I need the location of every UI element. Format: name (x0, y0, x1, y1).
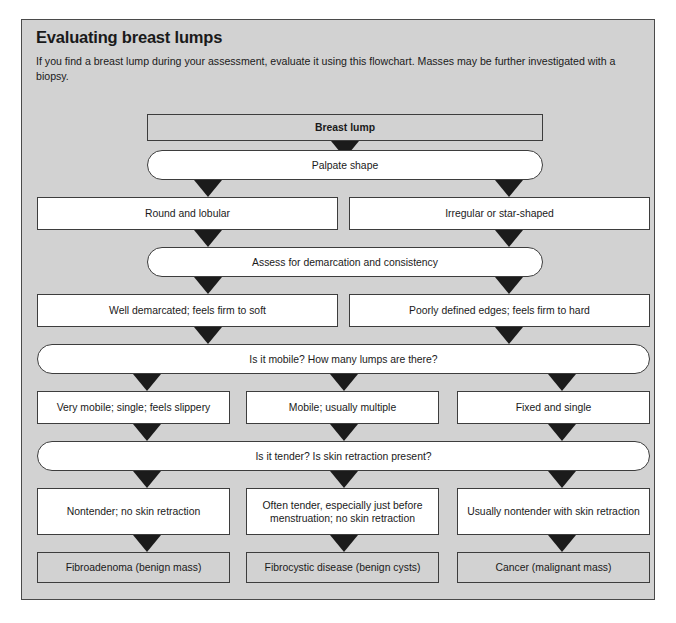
node-irregular-or-star-shaped: Irregular or star-shaped (349, 197, 650, 230)
node-label: Fibrocystic disease (benign cysts) (265, 561, 421, 574)
arrow-tender-question-to-nontender (133, 471, 161, 488)
arrow-poorly-defined-to-mobile-question (495, 327, 523, 344)
node-label: Very mobile; single; feels slippery (57, 401, 211, 414)
node-label: Palpate shape (312, 159, 378, 172)
arrow-irregular-or-star-shaped-to-assess (495, 230, 523, 247)
arrow-mobile-question-to-mobile-multiple (330, 374, 358, 391)
node-label: Usually nontender with skin retraction (467, 505, 640, 518)
node-label: Nontender; no skin retraction (67, 505, 200, 518)
node-label: Fixed and single (516, 401, 592, 414)
arrow-well-demarcated-to-mobile-question (194, 327, 222, 344)
node-is-it-tender-question: Is it tender? Is skin retraction present… (37, 441, 650, 471)
arrow-tender-question-to-often-tender (330, 471, 358, 488)
node-label: Cancer (malignant mass) (495, 561, 611, 574)
node-fibroadenoma: Fibroadenoma (benign mass) (37, 552, 230, 583)
node-well-demarcated: Well demarcated; feels firm to soft (37, 294, 338, 327)
node-label: Assess for demarcation and consistency (252, 256, 438, 269)
arrow-palpate-shape-to-round-and-lobular (194, 180, 222, 197)
node-label: Irregular or star-shaped (445, 207, 554, 220)
node-often-tender-before-menstruation: Often tender, especially just before men… (246, 488, 439, 535)
arrow-usually-nontender-to-cancer (548, 535, 576, 552)
arrow-fixed-single-to-tender-question (548, 424, 576, 441)
node-poorly-defined-edges: Poorly defined edges; feels firm to hard (349, 294, 650, 327)
arrow-round-and-lobular-to-assess (194, 230, 222, 247)
arrow-palpate-shape-to-irregular-or-star-shaped (495, 180, 523, 197)
node-breast-lump: Breast lump (147, 114, 543, 141)
node-label: Round and lobular (145, 207, 230, 220)
node-fibrocystic-disease: Fibrocystic disease (benign cysts) (246, 552, 439, 583)
arrow-mobile-question-to-fixed-single (548, 374, 576, 391)
node-cancer: Cancer (malignant mass) (457, 552, 650, 583)
node-label: Breast lump (315, 121, 375, 134)
arrow-nontender-to-fibroadenoma (133, 535, 161, 552)
node-label: Well demarcated; feels firm to soft (109, 304, 266, 317)
arrow-mobile-multiple-to-tender-question (330, 424, 358, 441)
flowchart-diagram: Breast lump Palpate shape Round and lobu… (22, 20, 656, 601)
flowchart-panel: Evaluating breast lumps If you find a br… (21, 19, 655, 600)
arrow-often-tender-to-fibrocystic-disease (330, 535, 358, 552)
arrow-assess-to-well-demarcated (194, 277, 222, 294)
node-assess-demarcation-consistency: Assess for demarcation and consistency (147, 247, 543, 277)
arrow-tender-question-to-usually-nontender (548, 471, 576, 488)
node-palpate-shape: Palpate shape (147, 150, 543, 180)
node-label: Poorly defined edges; feels firm to hard (409, 304, 590, 317)
node-round-and-lobular: Round and lobular (37, 197, 338, 230)
node-label: Fibroadenoma (benign mass) (66, 561, 202, 574)
node-mobile-usually-multiple: Mobile; usually multiple (246, 391, 439, 424)
node-usually-nontender-with-skin-retraction: Usually nontender with skin retraction (457, 488, 650, 535)
arrow-mobile-question-to-very-mobile (133, 374, 161, 391)
node-fixed-and-single: Fixed and single (457, 391, 650, 424)
node-nontender-no-skin-retraction: Nontender; no skin retraction (37, 488, 230, 535)
node-label: Is it tender? Is skin retraction present… (255, 450, 431, 463)
node-very-mobile-single-slippery: Very mobile; single; feels slippery (37, 391, 230, 424)
arrow-very-mobile-to-tender-question (133, 424, 161, 441)
node-is-it-mobile-question: Is it mobile? How many lumps are there? (37, 344, 650, 374)
node-label: Often tender, especially just before men… (253, 499, 432, 525)
arrow-assess-to-poorly-defined (495, 277, 523, 294)
node-label: Mobile; usually multiple (289, 401, 396, 414)
node-label: Is it mobile? How many lumps are there? (249, 353, 437, 366)
